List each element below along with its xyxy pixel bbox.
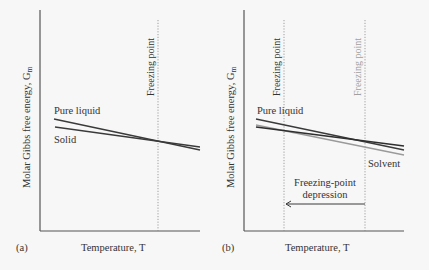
freezing-point-label-solution: Freezing point	[271, 38, 282, 96]
solid-curve-b	[256, 127, 404, 146]
panel-label-a: (a)	[16, 242, 28, 254]
y-axis-label-b: Molar Gibbs free energy, Gm	[225, 67, 238, 188]
freezing-point-label-a: Freezing point	[145, 38, 156, 96]
pure-liquid-curve-b	[256, 119, 404, 150]
pure-liquid-label-b: Pure liquid	[257, 105, 304, 116]
panel-label-b: (b)	[222, 242, 235, 254]
x-axis-label-b: Temperature, T	[285, 242, 350, 253]
solvent-label-b: Solvent	[368, 158, 400, 169]
freezing-point-label-pure: Freezing point	[352, 38, 363, 96]
fpd-label-line1: Freezing-point	[294, 177, 356, 188]
solid-curve-a	[55, 127, 200, 147]
solid-label-a: Solid	[54, 134, 77, 145]
fpd-label-line2: depression	[303, 189, 349, 200]
y-axis-label-a: Molar Gibbs free energy, Gm	[21, 67, 34, 188]
x-axis-label-a: Temperature, T	[81, 242, 146, 253]
diagram-canvas: Freezing point Pure liquid Solid Molar G…	[0, 0, 429, 270]
pure-liquid-label-a: Pure liquid	[54, 105, 101, 116]
panel-a: Freezing point Pure liquid Solid Molar G…	[16, 10, 200, 254]
panel-b: Freezing point Freezing point Pure liqui…	[222, 10, 404, 254]
